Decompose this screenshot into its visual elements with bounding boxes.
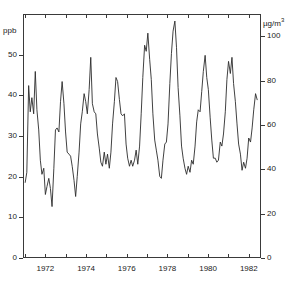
x-axis-tick-bottom [86,254,87,258]
y-axis-tick-right [261,125,265,126]
x-axis-tick-top [228,14,229,18]
x-axis-tick-bottom [249,254,250,258]
y-axis-tick-label-left: 0 [1,253,17,262]
y-axis-tick-label-left: 30 [1,131,17,140]
x-axis-tick-label: 1972 [30,264,60,273]
x-axis-tick-bottom [167,254,168,258]
x-axis-tick-top [66,14,67,18]
y-axis-tick-label-right: 40 [267,164,287,173]
y-axis-tick-label-right: 60 [267,120,287,129]
x-axis-tick-label: 1982 [234,264,264,273]
y-axis-tick-right [261,258,265,259]
x-axis-tick-label: 1980 [193,264,223,273]
x-axis-tick-top [127,14,128,18]
x-axis-tick-label: 1976 [112,264,142,273]
y-axis-tick-right [261,214,265,215]
x-axis-tick-bottom [147,254,148,258]
x-axis-tick-top [86,14,87,18]
left-axis-unit-label: ppb [3,26,16,35]
x-axis-tick-bottom [25,254,26,258]
x-axis-tick-bottom [106,254,107,258]
y-axis-tick-right [261,36,265,37]
y-axis-tick-left [19,258,23,259]
x-axis-tick-bottom [127,254,128,258]
y-axis-tick-left [19,177,23,178]
chart-figure: ppb µg/m3 010203040500204060801001972197… [0,0,293,286]
x-axis-tick-bottom [45,254,46,258]
y-axis-tick-right [261,169,265,170]
plot-area [23,14,261,258]
x-axis-tick-top [147,14,148,18]
y-axis-tick-label-right: 100 [267,31,287,40]
series-polyline [25,21,257,207]
right-axis-unit-base: µg/m [263,19,281,28]
x-axis-tick-top [106,14,107,18]
y-axis-tick-left [19,95,23,96]
y-axis-tick-label-left: 20 [1,172,17,181]
y-axis-tick-right [261,81,265,82]
series-line-chart [24,15,260,257]
right-axis-unit-label: µg/m3 [263,17,284,28]
y-axis-tick-left [19,217,23,218]
y-axis-tick-label-left: 10 [1,212,17,221]
y-axis-tick-label-right: 80 [267,76,287,85]
x-axis-tick-bottom [208,254,209,258]
x-axis-tick-bottom [188,254,189,258]
x-axis-tick-label: 1974 [71,264,101,273]
x-axis-tick-bottom [66,254,67,258]
x-axis-tick-top [249,14,250,18]
x-axis-tick-top [45,14,46,18]
x-axis-tick-top [167,14,168,18]
y-axis-tick-label-right: 0 [267,253,287,262]
x-axis-tick-top [208,14,209,18]
y-axis-tick-label-right: 20 [267,209,287,218]
y-axis-tick-left [19,136,23,137]
x-axis-tick-bottom [228,254,229,258]
y-axis-tick-label-left: 40 [1,90,17,99]
right-axis-unit-exponent: 3 [281,17,284,23]
x-axis-tick-label: 1978 [152,264,182,273]
x-axis-tick-top [25,14,26,18]
x-axis-tick-top [188,14,189,18]
y-axis-tick-label-left: 50 [1,50,17,59]
y-axis-tick-left [19,55,23,56]
